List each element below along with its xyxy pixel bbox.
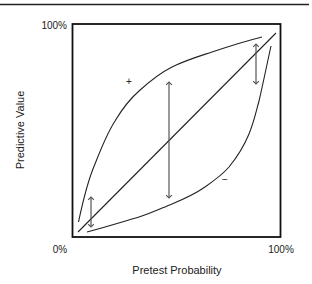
x-tick-100: 100%	[268, 244, 294, 255]
y-axis-title: Predictive Value	[14, 91, 26, 170]
chart-svg: + − 100% 0% 100% Pretest Probability Pre…	[0, 0, 312, 284]
plus-label: +	[126, 76, 132, 87]
plot-frame	[73, 24, 281, 237]
y-tick-100: 100%	[41, 20, 67, 31]
x-tick-0: 0%	[53, 244, 68, 255]
positive-predictive-curve	[79, 37, 263, 222]
x-axis-title: Pretest Probability	[132, 264, 222, 276]
minus-label: −	[222, 174, 228, 185]
figure: + − 100% 0% 100% Pretest Probability Pre…	[0, 0, 312, 284]
negative-predictive-curve	[87, 46, 271, 232]
